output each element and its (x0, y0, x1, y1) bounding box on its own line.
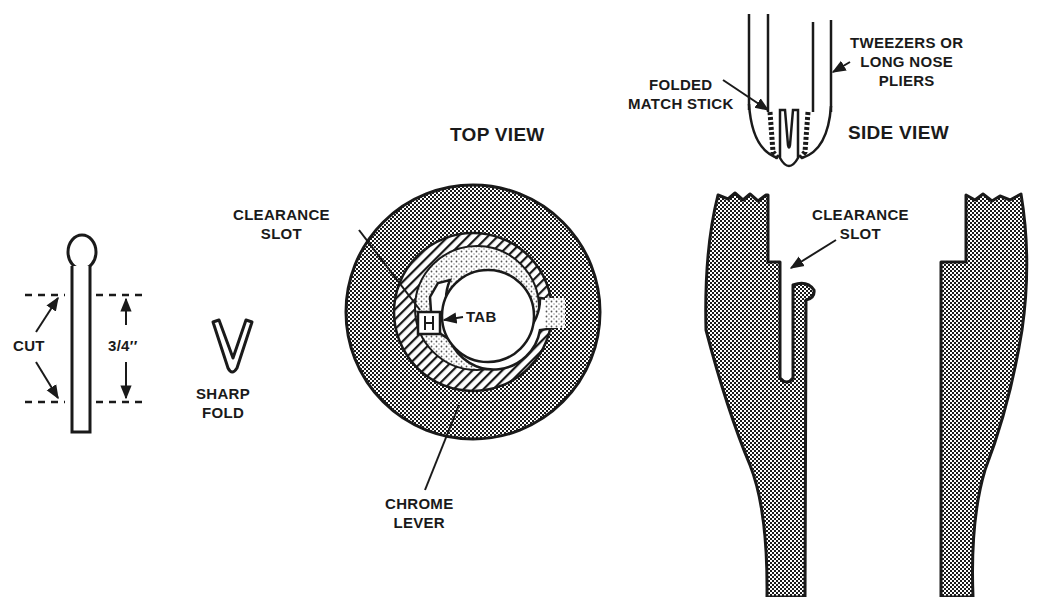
match-head (68, 235, 96, 269)
top-view-illustration (346, 185, 600, 490)
tweezers-line2: LONG NOSE (850, 52, 963, 71)
tweezers-line3: PLIERS (850, 71, 963, 90)
dimension-label: 3/4′′ (108, 336, 138, 355)
top-clearance-slot-label: CLEARANCE SLOT (233, 205, 330, 243)
sharp-fold-line1: SHARP (196, 384, 250, 403)
tweezers-leader (833, 62, 850, 72)
cut-arrow-top (36, 298, 58, 332)
folded-match-line1: FOLDED (628, 75, 734, 94)
match-stick-body (72, 266, 90, 432)
side-clearance-slot-arrow (791, 240, 836, 268)
folded-match-label: FOLDED MATCH STICK (628, 75, 734, 113)
cut-label: CUT (13, 336, 45, 355)
cut-arrow-bottom (36, 362, 58, 398)
top-clearance-slot-line1: CLEARANCE (233, 205, 330, 224)
sharp-fold-v-icon (213, 320, 252, 372)
chrome-lever-label: CHROME LEVER (385, 494, 453, 532)
chrome-lever-line1: CHROME (385, 494, 453, 513)
side-view-title: SIDE VIEW (848, 122, 949, 144)
top-clearance-slot-line2: SLOT (233, 224, 330, 243)
folded-match-line2: MATCH STICK (628, 94, 734, 113)
tweezers-illustration (723, 14, 850, 166)
left-housing (706, 193, 814, 597)
side-view-illustration (706, 193, 1027, 597)
match-stick-illustration (25, 235, 148, 432)
right-housing (941, 194, 1027, 597)
side-clearance-slot-line1: CLEARANCE (812, 205, 909, 224)
tweezers-label: TWEEZERS OR LONG NOSE PLIERS (850, 33, 963, 90)
side-clearance-slot-label: CLEARANCE SLOT (812, 205, 909, 243)
top-view-title: TOP VIEW (450, 124, 545, 146)
tweezers-line1: TWEEZERS OR (850, 33, 963, 52)
sharp-fold-label: SHARP FOLD (196, 384, 250, 422)
folded-match-in-tweezers (780, 110, 798, 166)
side-clearance-slot-line2: SLOT (812, 224, 909, 243)
chrome-lever-line2: LEVER (385, 513, 453, 532)
tab-label: TAB (466, 307, 497, 326)
sharp-fold-line2: FOLD (196, 403, 250, 422)
